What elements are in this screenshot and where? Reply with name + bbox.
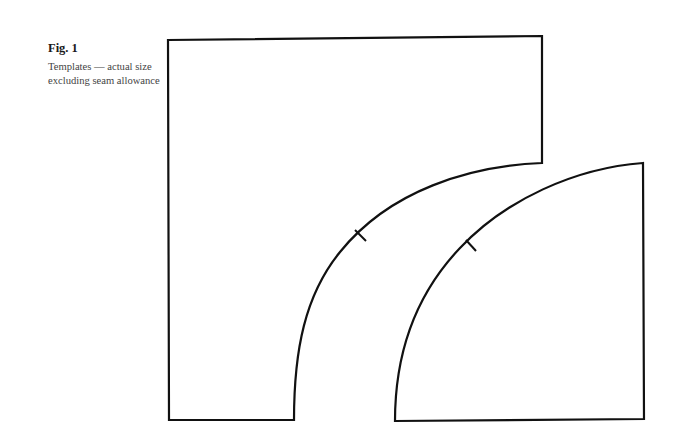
outer-template <box>168 36 542 420</box>
outer-template-outline <box>168 36 542 420</box>
quarter-circle-template-notch-mark <box>466 240 476 251</box>
template-diagram <box>0 0 681 431</box>
quarter-circle-template <box>395 163 644 421</box>
quarter-circle-template-outline <box>395 163 644 421</box>
outer-template-notch-mark <box>355 230 366 241</box>
